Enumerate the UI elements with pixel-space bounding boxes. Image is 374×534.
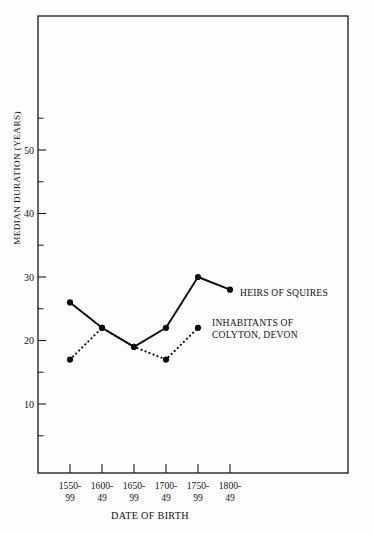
series-label-colyton-line2: COLYTON, DEVON bbox=[212, 329, 298, 340]
series-colyton-line bbox=[70, 328, 198, 360]
data-point bbox=[67, 299, 73, 305]
x-tick-label-1650-99-line2: 99 bbox=[129, 492, 139, 503]
data-point bbox=[163, 356, 169, 362]
series-label-heirs-of-squires: HEIRS OF SQUIRES bbox=[240, 287, 328, 298]
data-point bbox=[227, 287, 233, 293]
x-tick-label-1650-99-line1: 1650- bbox=[123, 480, 145, 491]
series-label-colyton-line1: INHABITANTS OF bbox=[212, 317, 293, 328]
y-tick-label-20: 20 bbox=[24, 335, 34, 346]
x-axis-tick-labels: 1550- 99 1600- 49 1650- 99 1700- 49 1750… bbox=[59, 480, 241, 503]
series-heirs-line bbox=[70, 277, 230, 347]
series-inhabitants-colyton bbox=[67, 325, 201, 363]
data-point bbox=[67, 356, 73, 362]
figure-page: 50 40 30 20 10 MEDIAN DURATION (YEARS) 1… bbox=[0, 0, 374, 534]
y-tick-label-40: 40 bbox=[24, 208, 34, 219]
data-point bbox=[163, 325, 169, 331]
x-tick-label-1800-49-line1: 1800- bbox=[219, 480, 241, 491]
y-axis-tick-labels: 50 40 30 20 10 bbox=[24, 145, 34, 410]
x-tick-label-1600-49-line1: 1600- bbox=[91, 480, 113, 491]
data-point bbox=[195, 325, 201, 331]
x-axis-ticks bbox=[70, 464, 230, 473]
line-chart-figure: 50 40 30 20 10 MEDIAN DURATION (YEARS) 1… bbox=[0, 0, 374, 534]
plot-frame bbox=[38, 16, 348, 473]
x-axis-title: DATE OF BIRTH bbox=[111, 510, 189, 521]
data-point bbox=[195, 274, 201, 280]
x-tick-label-1550-99-line2: 99 bbox=[65, 492, 75, 503]
x-tick-label-1700-49-line1: 1700- bbox=[155, 480, 177, 491]
x-tick-label-1700-49-line2: 49 bbox=[161, 492, 171, 503]
data-point bbox=[131, 344, 137, 350]
y-tick-label-10: 10 bbox=[24, 399, 34, 410]
x-tick-label-1550-99-line1: 1550- bbox=[59, 480, 81, 491]
x-tick-label-1750-99-line1: 1750- bbox=[187, 480, 209, 491]
chart-canvas: 50 40 30 20 10 MEDIAN DURATION (YEARS) 1… bbox=[0, 0, 374, 534]
x-tick-label-1750-99-line2: 99 bbox=[193, 492, 203, 503]
y-axis-ticks bbox=[38, 150, 46, 404]
y-tick-label-50: 50 bbox=[24, 145, 34, 156]
y-tick-label-30: 30 bbox=[24, 272, 34, 283]
data-point bbox=[99, 325, 105, 331]
x-tick-label-1800-49-line2: 49 bbox=[225, 492, 235, 503]
y-axis-title: MEDIAN DURATION (YEARS) bbox=[12, 111, 22, 245]
series-colyton-markers bbox=[67, 325, 201, 363]
x-tick-label-1600-49-line2: 49 bbox=[97, 492, 107, 503]
